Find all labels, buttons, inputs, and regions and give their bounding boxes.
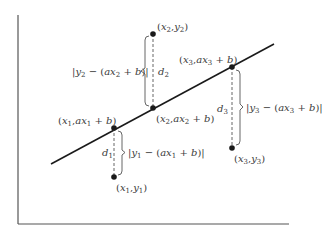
point-observed-3 [229, 145, 235, 151]
label-observed-2: (x2,y2) [157, 21, 188, 34]
distance-label-3: d3 [217, 103, 228, 116]
point-observed-1 [111, 174, 117, 180]
brace-1 [118, 131, 125, 175]
label-fitted-1: (x1,ax1 + b) [58, 115, 116, 128]
distance-label-1: d1 [102, 147, 113, 160]
label-fitted-2: (x2,ax2 + b) [156, 113, 214, 126]
residual-label-1: |y1 − (ax1 + b)| [128, 147, 205, 160]
label-observed-1: (x1,y1) [116, 182, 147, 195]
residual-label-3: |y3 − (ax3 + b)| [246, 102, 323, 115]
distance-label-2: d2 [158, 66, 169, 79]
regression-residual-diagram: (x2,y2) |y2 − (ax2 + b)| d2 (x3,ax3 + b)… [0, 0, 326, 233]
residual-label-2: |y2 − (ax2 + b)| [72, 66, 149, 79]
label-observed-3: (x3,y3) [234, 153, 265, 166]
brace-3 [236, 70, 243, 145]
point-observed-2 [150, 31, 156, 37]
label-fitted-3: (x3,ax3 + b) [179, 54, 237, 67]
point-fitted-3 [229, 64, 235, 70]
point-fitted-2 [150, 105, 156, 111]
point-fitted-1 [111, 125, 117, 131]
